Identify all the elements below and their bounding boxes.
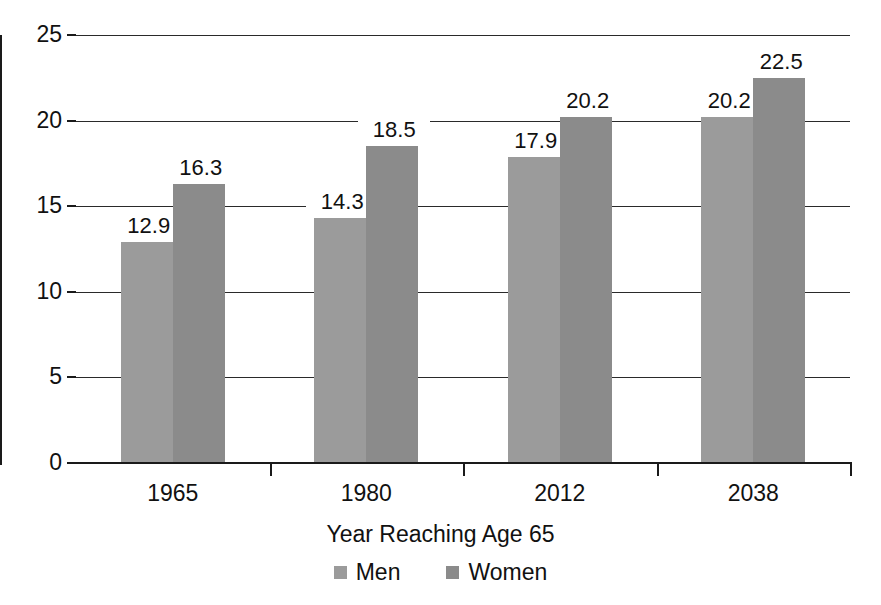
x-axis-tick-label-1965: 1965: [76, 480, 270, 506]
chart-legend: MenWomen: [0, 560, 881, 585]
x-axis-tick: [657, 463, 659, 476]
bar-value-label: 18.5: [358, 119, 430, 141]
legend-swatch-icon: [446, 566, 459, 579]
y-axis-tick-label: 0: [16, 451, 62, 474]
y-axis-tick-label: 20: [16, 109, 62, 132]
bar-men-1980: [314, 218, 366, 463]
y-axis-tick: [67, 34, 76, 36]
bar-women-1965: [173, 184, 225, 463]
bar-women-2012: [560, 117, 612, 463]
bar-men-2012: [508, 157, 560, 463]
bar-men-2038: [701, 117, 753, 463]
legend-label: Men: [356, 560, 401, 585]
y-axis-tick-label: 10: [16, 280, 62, 303]
bar-value-label: 16.3: [165, 157, 237, 179]
bar-men-1965: [121, 242, 173, 463]
bar-value-label: 22.5: [745, 51, 817, 73]
y-axis-tick-label: 25: [16, 23, 62, 46]
x-axis-tick: [463, 463, 465, 476]
y-axis-tick: [67, 376, 76, 378]
y-axis-tick-label: 15: [16, 194, 62, 217]
y-axis-tick: [67, 120, 76, 122]
bar-value-label: 20.2: [552, 90, 624, 112]
bar-chart: 0510152025 12.916.314.318.517.920.220.22…: [0, 0, 881, 605]
x-axis-tick: [270, 463, 272, 476]
y-axis-tick: [67, 462, 76, 464]
legend-swatch-icon: [334, 566, 347, 579]
y-axis-tick: [67, 205, 76, 207]
x-axis-tick-label-2012: 2012: [463, 480, 657, 506]
gridline: [76, 35, 850, 36]
legend-item-men[interactable]: Men: [334, 560, 401, 585]
plot-area: 12.916.314.318.517.920.220.222.5: [76, 35, 850, 463]
x-axis-tick-label-2038: 2038: [657, 480, 851, 506]
y-axis-tick: [67, 291, 76, 293]
y-axis-line: [0, 35, 2, 465]
legend-label: Women: [468, 560, 547, 585]
y-axis-tick-label: 5: [16, 365, 62, 388]
x-axis-tick: [850, 463, 852, 476]
x-axis-tick-label-1980: 1980: [270, 480, 464, 506]
bar-women-2038: [753, 78, 805, 463]
legend-item-women[interactable]: Women: [446, 560, 547, 585]
x-axis-title: Year Reaching Age 65: [0, 521, 881, 547]
bar-women-1980: [366, 146, 418, 463]
